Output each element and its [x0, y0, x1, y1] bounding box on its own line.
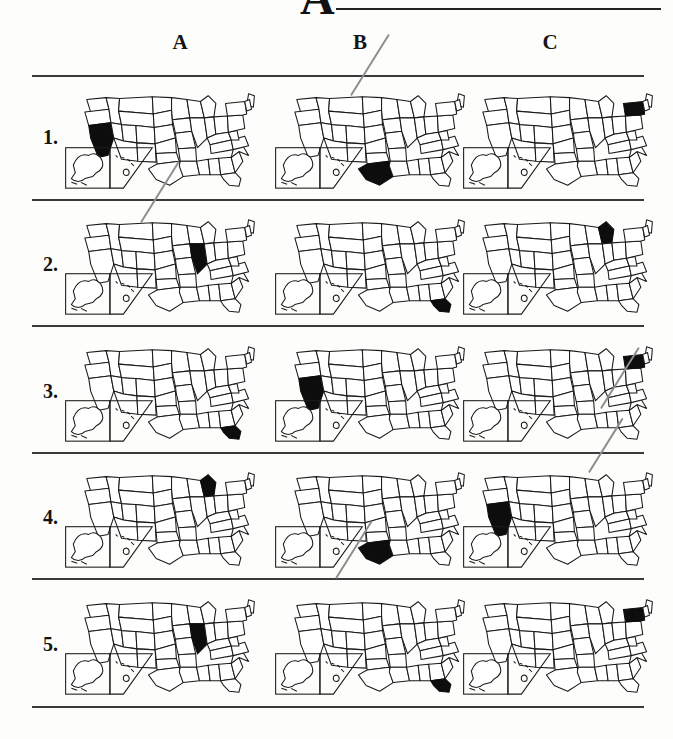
us-map	[62, 88, 258, 192]
divider-row3	[32, 452, 644, 454]
state-fl	[221, 679, 241, 692]
state-ar	[388, 401, 406, 414]
state-wy	[119, 237, 155, 253]
state-oh	[612, 495, 626, 513]
state-ia	[383, 118, 402, 133]
state-nm	[535, 269, 554, 288]
state-oh	[424, 622, 438, 640]
us-map	[460, 594, 656, 698]
state-ia	[173, 371, 192, 386]
state-la	[577, 540, 597, 555]
state-ak	[281, 533, 312, 564]
state-ar	[178, 654, 196, 667]
map-cell-1c[interactable]	[460, 88, 656, 192]
state-ak	[281, 280, 312, 311]
state-tx	[148, 667, 183, 691]
state-la	[389, 161, 409, 176]
us-map	[272, 467, 468, 571]
us-map	[460, 467, 656, 571]
state-ak	[281, 660, 312, 691]
row-label-3: 3.	[18, 380, 58, 403]
divider-row1	[32, 199, 644, 201]
us-map	[272, 88, 468, 192]
row-label-5: 5.	[18, 633, 58, 656]
state-co	[136, 505, 155, 523]
state-tx	[546, 161, 581, 185]
state-oh	[612, 622, 626, 640]
state-nm	[535, 143, 554, 162]
state-ut	[331, 251, 346, 269]
map-cell-2a[interactable]	[62, 214, 258, 318]
state-la	[389, 287, 409, 302]
state-ut	[519, 378, 534, 396]
us-map	[460, 214, 656, 318]
state-co	[534, 126, 553, 144]
state-oh	[214, 116, 228, 134]
state-co	[346, 126, 365, 144]
state-ut	[331, 125, 346, 143]
map-cell-1b[interactable]	[272, 88, 468, 192]
state-la	[577, 414, 597, 429]
state-oh	[214, 369, 228, 387]
state-wy	[119, 364, 155, 380]
us-map	[62, 214, 258, 318]
state-pa	[227, 241, 244, 258]
state-ar	[178, 274, 196, 287]
state-co	[534, 379, 553, 397]
state-ia	[571, 497, 590, 512]
map-cell-2b[interactable]	[272, 214, 468, 318]
state-ar	[576, 274, 594, 287]
state-wy	[517, 490, 553, 506]
state-wy	[517, 617, 553, 633]
state-tx	[358, 161, 393, 185]
state-ut	[121, 631, 136, 649]
map-cell-3a[interactable]	[62, 341, 258, 445]
state-pa	[437, 494, 454, 511]
worksheet-page: A A B C 1. 2. 3. 4. 5.	[0, 0, 673, 739]
state-ar	[576, 527, 594, 540]
map-cell-5a[interactable]	[62, 594, 258, 698]
state-ny	[623, 101, 644, 115]
column-header-b: B	[330, 30, 390, 55]
state-co	[136, 126, 155, 144]
map-cell-2c[interactable]	[460, 214, 656, 318]
header-cutoff-letter: A	[300, 0, 335, 22]
state-la	[577, 667, 597, 682]
state-tx	[358, 414, 393, 438]
state-ut	[331, 378, 346, 396]
state-la	[389, 667, 409, 682]
row-label-2: 2.	[18, 253, 58, 276]
state-wy	[329, 617, 365, 633]
state-ia	[383, 371, 402, 386]
state-la	[179, 540, 199, 555]
state-pa	[625, 494, 642, 511]
map-cell-1a[interactable]	[62, 88, 258, 192]
state-ny	[623, 227, 644, 241]
state-tx	[546, 667, 581, 691]
map-cell-4c[interactable]	[460, 467, 656, 571]
state-ia	[173, 244, 192, 259]
state-la	[179, 287, 199, 302]
map-cell-4b[interactable]	[272, 467, 468, 571]
map-cell-5b[interactable]	[272, 594, 468, 698]
state-fl	[221, 552, 241, 565]
state-oh	[424, 369, 438, 387]
map-cell-4a[interactable]	[62, 467, 258, 571]
state-wy	[329, 111, 365, 127]
state-pa	[227, 621, 244, 638]
state-ia	[383, 497, 402, 512]
state-ny	[225, 227, 246, 241]
map-cell-3b[interactable]	[272, 341, 468, 445]
map-cell-3c[interactable]	[460, 341, 656, 445]
row-label-4: 4.	[18, 506, 58, 529]
us-map	[272, 594, 468, 698]
state-ia	[173, 118, 192, 133]
map-cell-5c[interactable]	[460, 594, 656, 698]
state-wy	[119, 617, 155, 633]
state-nm	[535, 649, 554, 668]
state-ut	[331, 504, 346, 522]
state-ak	[71, 533, 102, 564]
state-co	[136, 379, 155, 397]
state-wy	[517, 364, 553, 380]
state-ut	[519, 631, 534, 649]
